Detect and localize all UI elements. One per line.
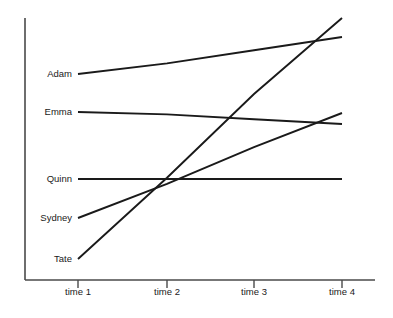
chart-canvas: AdamEmmaQuinnSydneyTate time 1time 2time…	[0, 0, 393, 318]
series-line-tate[interactable]	[78, 18, 342, 259]
x-axis-tick-labels-group: time 1time 2time 3time 4	[65, 286, 355, 297]
series-label-emma: Emma	[45, 106, 73, 117]
series-labels-group: AdamEmmaQuinnSydneyTate	[40, 68, 72, 264]
series-lines-group	[78, 18, 342, 259]
x-tick-label-1: time 1	[65, 286, 91, 297]
series-label-adam: Adam	[47, 68, 72, 79]
series-label-sydney: Sydney	[40, 212, 72, 223]
x-tick-label-3: time 3	[241, 286, 267, 297]
axes-group	[25, 18, 375, 280]
series-label-tate: Tate	[54, 253, 72, 264]
series-line-emma[interactable]	[78, 112, 342, 124]
slopegraph-chart: AdamEmmaQuinnSydneyTate time 1time 2time…	[0, 0, 393, 318]
x-tick-label-2: time 2	[154, 286, 180, 297]
series-line-sydney[interactable]	[78, 113, 342, 218]
series-label-quinn: Quinn	[47, 173, 72, 184]
series-line-adam[interactable]	[78, 37, 342, 74]
x-tick-label-4: time 4	[329, 286, 355, 297]
tick-marks-group	[78, 280, 342, 288]
